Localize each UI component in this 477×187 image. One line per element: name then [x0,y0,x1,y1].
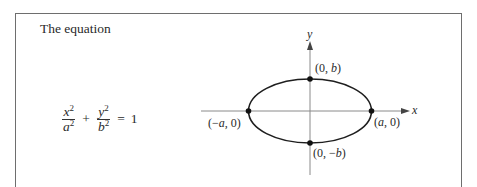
label-part: (− [208,116,219,130]
vertex-top-dot [307,76,313,82]
point-label-top: (0, b) [315,62,341,74]
point-label-right: (a, 0) [374,116,400,128]
y-axis-arrow-icon [307,41,313,50]
label-part: , 0) [384,115,400,129]
x-axis-arrow-icon [401,108,410,114]
point-label-left: (−a, 0) [208,117,241,129]
ellipse-diagram [0,0,477,187]
x-axis-label: x [412,104,417,116]
label-part: (0, − [313,146,336,160]
vertex-right-dot [369,108,375,114]
label-part: ) [337,61,341,75]
vertex-bottom-dot [307,140,313,146]
point-label-bottom: (0, −b) [313,147,346,159]
label-part: ) [342,146,346,160]
vertex-left-dot [246,108,252,114]
y-axis-label: y [307,28,312,40]
label-part: , 0) [225,116,241,130]
label-part: (0, [315,61,331,75]
